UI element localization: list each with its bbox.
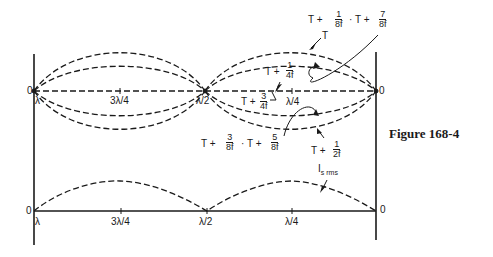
bottom-origin-left-label: 0 xyxy=(26,206,32,216)
frac-den: 4f xyxy=(285,71,295,80)
label-i-rms-sub: s rms xyxy=(321,169,338,176)
label-t-plus-3eighth-prefix: T + xyxy=(201,139,216,149)
frac-den: 8f xyxy=(334,20,344,29)
arrow-half-icon xyxy=(317,128,322,134)
label-t-plus-5-prefix: T + xyxy=(247,139,262,149)
bottom-quarter-label: λ/4 xyxy=(285,217,298,227)
bottom-origin-right-label: 0 xyxy=(380,205,386,215)
bottom-lambda-label: λ xyxy=(35,217,40,227)
bottom-3l4-label: 3λ/4 xyxy=(111,217,130,227)
label-t-plus-eighth-prefix: T + xyxy=(308,15,323,25)
figure-caption: Figure 168-4 xyxy=(389,126,459,142)
arrow-3eighth-icon xyxy=(313,109,319,116)
label-t-plus-quarter-prefix: T + xyxy=(265,67,280,77)
frac-3-8f: 3 8f xyxy=(225,133,235,152)
top-quarter-label: λ/4 xyxy=(286,97,299,107)
frac-den: 8f xyxy=(225,143,235,152)
label-t: T xyxy=(322,31,328,41)
top-origin-right-label: 0 xyxy=(379,86,385,96)
leader-3eighth xyxy=(284,107,316,136)
frac-5-8f: 5 8f xyxy=(270,133,280,152)
leader-three-quarter xyxy=(270,92,276,100)
frac-7-8f: 7 8f xyxy=(378,10,388,29)
frac-den: 2f xyxy=(332,150,342,159)
frac-1-8f: 1 8f xyxy=(334,10,344,29)
label-sep-2: · xyxy=(241,139,244,149)
leader-eighth xyxy=(309,35,378,82)
arrow-t-icon xyxy=(309,43,316,50)
bottom-half-label: λ/2 xyxy=(199,217,212,227)
label-sep: · xyxy=(349,15,352,25)
label-i-rms: Is rms xyxy=(318,164,338,178)
label-t-plus-three-quarter-prefix: T + xyxy=(241,97,256,107)
top-3l4-label: 3λ/4 xyxy=(110,96,129,106)
node-right xyxy=(374,89,378,93)
label-t-plus-7-prefix: T + xyxy=(355,15,370,25)
top-lambda-label: λ xyxy=(35,96,40,106)
frac-den: 4f xyxy=(259,102,269,111)
curve-t-eighth-left xyxy=(34,66,205,91)
frac-3-4f: 3 4f xyxy=(259,92,269,111)
frac-den: 8f xyxy=(270,143,280,152)
top-half-label: λ/2 xyxy=(196,96,209,106)
label-t-plus-half-prefix: T + xyxy=(311,146,326,156)
frac-1-2f: 1 2f xyxy=(332,140,342,159)
curve-t-left xyxy=(34,53,205,91)
top-origin-left-label: 0 xyxy=(27,86,33,96)
frac-den: 8f xyxy=(378,20,388,29)
frac-1-4f: 1 4f xyxy=(285,61,295,80)
node-half xyxy=(203,89,207,93)
